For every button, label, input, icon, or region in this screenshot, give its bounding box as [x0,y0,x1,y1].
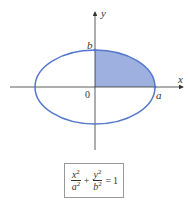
x-axis-label: x [178,74,183,85]
fraction-y: y2 b2 [93,169,103,192]
y-axis-label: y [101,8,106,19]
origin-label: 0 [85,90,90,100]
rhs-value: 1 [113,175,118,186]
a-label: a [156,90,162,101]
ellipse-equation: x2 a2 + y2 b2 = 1 [64,163,124,198]
plus-sign: + [84,175,90,186]
equals-sign: = [105,175,111,186]
fraction-x: x2 a2 [71,169,81,192]
point-b [94,49,97,52]
b-label: b [87,40,93,51]
